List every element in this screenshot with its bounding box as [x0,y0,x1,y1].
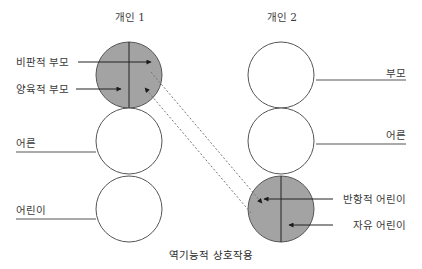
individual-1-title: 개인 1 [115,11,145,23]
individual-1-child-circle [96,176,162,242]
label-individual-2-parent: 부모 [386,67,406,79]
label-individual-1-child: 어린이 [16,204,46,216]
individual-2-parent-circle [248,42,314,108]
individual-1-ego-states [96,42,162,242]
label-critical-parent: 비판적 부모 [16,56,69,68]
label-rebellious-child: 반항적 어린이 [343,193,406,205]
diagram-caption: 역기능적 상호작용 [169,249,252,261]
individual-2-adult-circle [248,108,314,174]
label-nurturing-parent: 양육적 부모 [16,83,69,95]
label-individual-2-adult: 어른 [386,129,406,141]
individual-2-ego-states [248,42,314,242]
label-individual-1-adult: 어른 [16,137,36,149]
label-free-child: 자유 어린이 [353,219,406,231]
individual-2-title: 개인 2 [267,11,297,23]
ego-state-transaction-diagram: 개인 1 개인 2 비판적 부모 양육적 부모 어른 어린이 부모 어른 반항적… [0,0,422,269]
individual-1-adult-circle [96,108,162,174]
transaction-critical-to-rebellious [151,72,262,203]
